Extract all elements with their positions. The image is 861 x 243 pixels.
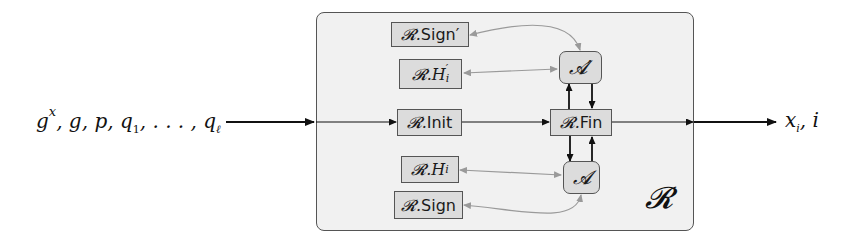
r-prefix: 𝓡. — [407, 113, 427, 132]
adversary-label: 𝓐 — [573, 166, 591, 189]
r-prefix: 𝓡. — [401, 25, 421, 44]
sign-prime-oracle-arrow — [470, 25, 580, 50]
r-fin-box: 𝓡.Fin — [550, 109, 612, 136]
subscript: i — [446, 74, 450, 84]
r-init-box: 𝓡.Init — [397, 109, 462, 136]
subscript: i — [445, 163, 449, 176]
output-label: xi, i — [785, 108, 819, 135]
output-index: , i — [800, 108, 819, 132]
r-sign-prime-box: 𝓡.Sign′ — [391, 22, 469, 47]
r-prefix: 𝓡. — [560, 113, 580, 132]
box-label: H — [432, 65, 446, 84]
h-oracle-arrow — [460, 170, 561, 175]
input-label: gx, g, p, q1, . . . , qℓ — [36, 108, 221, 136]
box-label: Fin — [580, 113, 603, 132]
box-label: Sign — [421, 196, 456, 215]
r-prefix: 𝓡. — [411, 160, 431, 179]
input-params: , g, p, q — [56, 109, 133, 133]
adversary-box: 𝓐 — [563, 161, 600, 194]
sign-oracle-arrow — [464, 195, 581, 213]
r-h-box: 𝓡.Hi — [401, 156, 459, 183]
r-h-prime-box: 𝓡.H′i — [399, 59, 462, 89]
box-label: H — [431, 160, 445, 179]
output-x: x — [785, 108, 796, 132]
input-dots: , . . . , q — [140, 109, 216, 133]
input-g: g — [36, 109, 49, 133]
box-label: Sign′ — [421, 25, 460, 44]
r-prefix: 𝓡. — [412, 65, 432, 84]
box-label: Init — [427, 113, 453, 132]
r-sign-box: 𝓡.Sign — [394, 191, 463, 219]
adversary-prime-label: 𝓐′ — [569, 56, 591, 79]
input-q1-sub: 1 — [133, 123, 140, 136]
input-exponent: x — [49, 104, 56, 119]
h-prime-oracle-arrow — [464, 69, 557, 73]
container-label: 𝓡 — [645, 180, 673, 216]
adversary-prime-box: 𝓐′ — [559, 51, 602, 84]
r-prefix: 𝓡. — [401, 196, 421, 215]
input-ql-sub: ℓ — [216, 123, 221, 136]
